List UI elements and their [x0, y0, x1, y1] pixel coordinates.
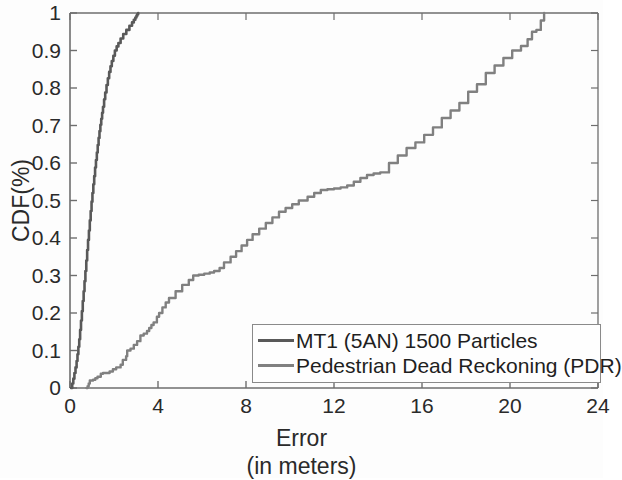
- y-tick-label: 0.1: [0, 339, 61, 363]
- y-tick-label: 0.2: [0, 301, 61, 325]
- y-tick-label: 0: [0, 376, 61, 400]
- y-tick-label: 0.3: [0, 264, 61, 288]
- legend-label: Pedestrian Dead Reckoning (PDR): [296, 354, 622, 378]
- x-tick-label: 0: [64, 394, 76, 418]
- y-tick-label: 0.8: [0, 76, 61, 100]
- x-tick-label: 12: [322, 394, 345, 418]
- x-tick-label: 8: [240, 394, 252, 418]
- legend-item: Pedestrian Dead Reckoning (PDR): [258, 353, 595, 378]
- x-tick-label: 24: [586, 394, 609, 418]
- series-line-1: [71, 13, 138, 388]
- x-axis-title-line-1: Error: [0, 424, 603, 452]
- x-axis-title-line-2: (in meters): [0, 452, 603, 480]
- y-tick-label: 1: [0, 1, 61, 25]
- legend-color-swatch: [258, 364, 294, 367]
- chart-legend: MT1 (5AN) 1500 ParticlesPedestrian Dead …: [252, 324, 601, 383]
- y-tick-label: 0.7: [0, 114, 61, 138]
- legend-label: MT1 (5AN) 1500 Particles: [296, 329, 538, 353]
- x-axis-title: Error (in meters): [0, 424, 603, 480]
- y-axis-title: CDF(%): [8, 152, 35, 248]
- x-tick-label: 4: [152, 394, 164, 418]
- x-tick-label: 20: [498, 394, 521, 418]
- legend-color-swatch: [258, 339, 294, 342]
- y-tick-label: 0.9: [0, 39, 61, 63]
- legend-item: MT1 (5AN) 1500 Particles: [258, 328, 595, 353]
- x-tick-label: 16: [410, 394, 433, 418]
